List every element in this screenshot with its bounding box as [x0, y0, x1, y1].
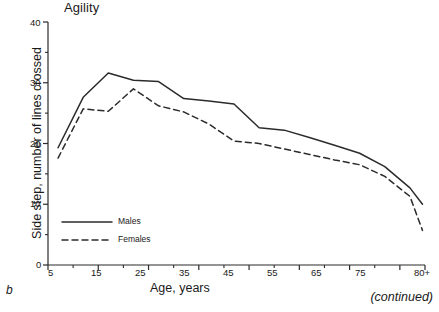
x-tick-label: 80+ [414, 267, 430, 278]
x-tick-label: 15 [91, 267, 102, 278]
x-axis-title: Age, years [150, 281, 210, 295]
y-tick-label: 0 [36, 259, 41, 270]
y-tick-label: 40 [30, 17, 41, 28]
figure-panel: Agility Side step, number of lines cross… [0, 0, 439, 312]
series-line-males [58, 73, 422, 204]
x-tick-label: 25 [135, 267, 146, 278]
y-tick-label: 10 [30, 198, 41, 209]
legend-label-males: Males [118, 216, 141, 226]
x-tick-label: 45 [223, 267, 234, 278]
x-tick-label: 65 [311, 267, 322, 278]
y-tick-label: 20 [30, 138, 41, 149]
legend-label-females: Females [118, 234, 151, 244]
x-tick-label: 35 [179, 267, 190, 278]
chart-title: Agility [64, 0, 99, 15]
continued-note: (continued) [370, 290, 433, 304]
x-tick-label: 75 [355, 267, 366, 278]
panel-letter: b [6, 283, 13, 297]
x-tick-label: 55 [267, 267, 278, 278]
chart-plot-area [0, 0, 439, 312]
x-tick-label: 5 [48, 267, 53, 278]
y-tick-label: 30 [30, 77, 41, 88]
